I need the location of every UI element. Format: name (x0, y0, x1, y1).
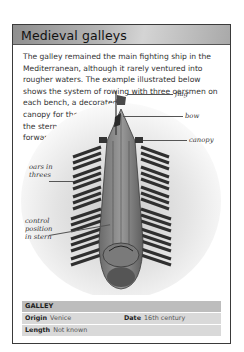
title-bar: Medieval galleys (13, 25, 230, 45)
label-canopy: canopy (189, 136, 214, 144)
specs-row-length: LengthNot known (22, 325, 221, 336)
page-title: Medieval galleys (21, 28, 127, 43)
label-oars: oars in threes (29, 163, 59, 179)
origin-label: Origin (25, 314, 47, 322)
length-value: Not known (53, 326, 87, 334)
specs-heading: GALLEY (22, 301, 221, 312)
galley-illustration: flag bow canopy oars in threes control p… (13, 91, 230, 295)
length-label: Length (25, 326, 50, 334)
bow-leader (123, 116, 183, 117)
specs-row-origin-date: OriginVenice Date16th century (22, 313, 221, 324)
label-flag: flag (175, 90, 188, 98)
description-wide: The galley remained the main fighting sh… (23, 52, 218, 96)
date-value: 16th century (144, 314, 185, 322)
canopy-leader (143, 140, 187, 141)
date-label: Date (124, 314, 141, 322)
label-bow: bow (185, 112, 199, 120)
galley-info-card: Medieval galleys The galley remained the… (12, 24, 231, 344)
oars-leader (49, 181, 73, 182)
origin-value: Venice (50, 314, 71, 322)
flag-leader (127, 94, 173, 95)
specs-table: GALLEY OriginVenice Date16th century Len… (22, 301, 221, 337)
galley-drawing-icon (13, 91, 230, 295)
label-control: control position in stern (25, 217, 61, 241)
